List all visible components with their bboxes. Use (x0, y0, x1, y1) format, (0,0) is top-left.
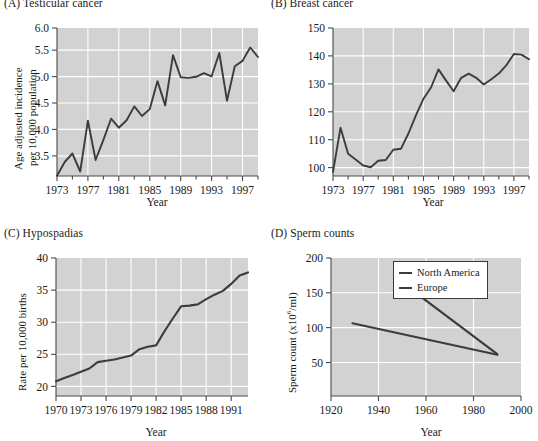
panel-b-svg: 100 110 120 130 140 150 1973 1977 1981 1… (295, 14, 533, 204)
svg-text:200: 200 (306, 252, 324, 264)
panel-c-hypospadias: (C) Hypospadias Rate per 10,000 births (0, 228, 269, 441)
svg-text:20: 20 (37, 381, 49, 393)
legend-label-europe: Europe (417, 280, 447, 295)
svg-text:40: 40 (37, 252, 49, 264)
svg-text:1976: 1976 (95, 404, 118, 416)
panel-b-plot: 100 110 120 130 140 150 1973 1977 1981 1… (295, 14, 533, 204)
svg-text:3.5: 3.5 (35, 150, 50, 162)
x-tick-labels: 1970 1973 1976 1979 1982 1985 1988 1991 (45, 404, 243, 416)
x-tick-labels: 1920 1940 1960 1980 2000 (320, 404, 533, 416)
y-tick-labels: 20 25 30 35 40 (37, 252, 49, 392)
svg-text:1985: 1985 (170, 404, 193, 416)
panel-d-legend: North America Europe (393, 261, 488, 299)
panel-c-xlabel: Year (56, 426, 256, 438)
svg-text:1920: 1920 (320, 404, 343, 416)
panel-c-title: (C) Hypospadias (4, 227, 83, 239)
panel-d-xlabel: Year (331, 426, 531, 438)
legend-label-north-america: North America (417, 265, 480, 280)
plot-area-bg (333, 28, 529, 176)
panel-a-plot: 3.5 4.0 4.5 5.0 5.5 6.0 1973 1977 1981 1… (30, 14, 268, 204)
svg-text:1980: 1980 (462, 404, 485, 416)
svg-text:1977: 1977 (76, 184, 99, 196)
svg-text:1997: 1997 (231, 184, 254, 196)
svg-text:150: 150 (308, 22, 326, 34)
svg-text:1991: 1991 (220, 404, 243, 416)
svg-text:6.0: 6.0 (35, 22, 50, 34)
y-tick-labels: 3.5 4.0 4.5 5.0 5.5 6.0 (35, 22, 50, 162)
svg-text:30: 30 (37, 316, 49, 328)
panel-a-testicular-cancer: (A) Testicular cancer Age adjusted incid… (0, 0, 269, 221)
y-tick-marks (328, 28, 333, 168)
svg-text:1993: 1993 (200, 184, 223, 196)
svg-text:25: 25 (37, 348, 49, 360)
panel-a-ylabel-line1: Age adjusted incidence (12, 67, 24, 170)
svg-text:1940: 1940 (367, 404, 390, 416)
svg-text:1973: 1973 (322, 184, 345, 196)
panel-a-svg: 3.5 4.0 4.5 5.0 5.5 6.0 1973 1977 1981 1… (30, 14, 268, 204)
plot-area-bg (56, 258, 248, 396)
svg-text:110: 110 (308, 134, 325, 146)
y-tick-labels: 100 110 120 130 140 150 (308, 22, 326, 174)
x-tick-marks (56, 396, 231, 401)
y-tick-labels: 50 100 150 200 (306, 252, 324, 369)
svg-text:100: 100 (306, 322, 324, 334)
panel-d-sperm-counts: (D) Sperm counts Sperm count (x106/ml) (269, 228, 538, 441)
svg-text:1997: 1997 (502, 184, 525, 196)
svg-text:120: 120 (308, 106, 326, 118)
svg-text:1993: 1993 (472, 184, 495, 196)
panel-b-title: (B) Breast cancer (271, 0, 353, 9)
panel-b-breast-cancer: (B) Breast cancer (269, 0, 538, 221)
svg-text:1977: 1977 (352, 184, 375, 196)
svg-text:130: 130 (308, 78, 326, 90)
x-tick-marks (331, 396, 521, 401)
legend-item-europe: Europe (399, 280, 480, 295)
y-tick-marks (52, 28, 57, 156)
svg-text:1985: 1985 (138, 184, 161, 196)
x-tick-labels: 1973 1977 1981 1985 1989 1993 1997 (322, 184, 526, 196)
x-tick-marks (333, 176, 529, 181)
legend-item-north-america: North America (399, 265, 480, 280)
panel-a-xlabel: Year (57, 196, 257, 208)
y-tick-marks (326, 258, 331, 363)
svg-text:1982: 1982 (145, 404, 168, 416)
svg-text:5.5: 5.5 (35, 44, 50, 56)
svg-text:4.5: 4.5 (35, 97, 50, 109)
svg-text:1981: 1981 (382, 184, 405, 196)
x-tick-marks (57, 176, 258, 181)
svg-text:5.0: 5.0 (35, 71, 50, 83)
svg-text:2000: 2000 (510, 404, 533, 416)
svg-text:140: 140 (308, 50, 326, 62)
svg-text:1989: 1989 (442, 184, 465, 196)
svg-text:1973: 1973 (70, 404, 93, 416)
svg-text:50: 50 (312, 357, 324, 369)
legend-swatch-north-america (399, 272, 412, 274)
svg-text:1985: 1985 (412, 184, 435, 196)
svg-text:4.0: 4.0 (35, 124, 50, 136)
svg-text:1979: 1979 (120, 404, 143, 416)
panel-c-svg: 20 25 30 35 40 1970 1973 1976 1979 1982 … (22, 244, 262, 424)
x-tick-labels: 1973 1977 1981 1985 1989 1993 1997 (46, 184, 255, 196)
panel-b-xlabel: Year (333, 196, 533, 208)
svg-text:1973: 1973 (46, 184, 69, 196)
svg-text:150: 150 (306, 287, 324, 299)
panel-a-title: (A) Testicular cancer (4, 0, 103, 9)
svg-text:100: 100 (308, 162, 326, 174)
svg-text:1960: 1960 (415, 404, 438, 416)
panel-c-plot: 20 25 30 35 40 1970 1973 1976 1979 1982 … (22, 244, 262, 424)
panel-d-title: (D) Sperm counts (271, 227, 354, 239)
y-tick-marks (51, 258, 56, 386)
svg-text:1981: 1981 (107, 184, 130, 196)
svg-text:1988: 1988 (195, 404, 218, 416)
legend-swatch-europe (399, 287, 412, 289)
svg-text:1970: 1970 (45, 404, 68, 416)
svg-text:35: 35 (37, 284, 49, 296)
svg-text:1989: 1989 (169, 184, 192, 196)
